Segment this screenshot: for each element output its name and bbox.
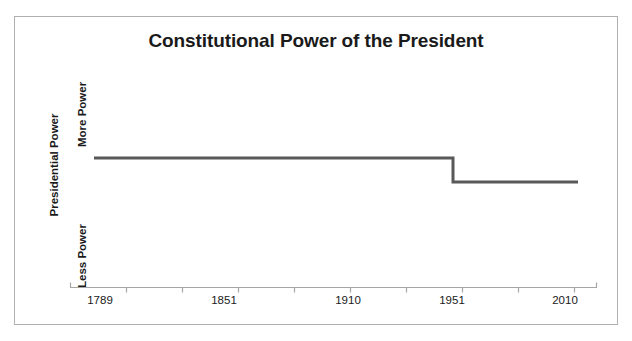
x-axis-tick-label-4: 2010 — [535, 294, 595, 306]
x-axis-tick-label-1: 1851 — [194, 294, 254, 306]
data-series-presidential-power — [94, 158, 578, 182]
chart-figure: Constitutional Power of the President Pr… — [0, 0, 632, 341]
x-axis — [70, 283, 597, 293]
x-axis-tick-label-3: 1951 — [422, 294, 482, 306]
plot-area — [0, 0, 632, 341]
x-axis-tick-label-0: 1789 — [70, 294, 130, 306]
x-axis-tick-label-2: 1910 — [318, 294, 378, 306]
